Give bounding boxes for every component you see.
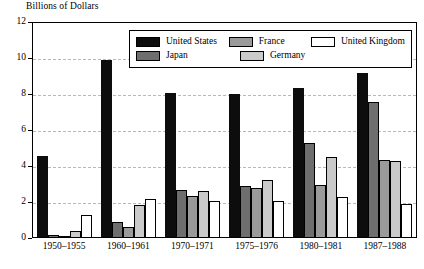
x-axis-tick-label: 1970–1971 <box>160 241 224 259</box>
bar-de[interactable] <box>326 157 337 237</box>
bar-fr[interactable] <box>59 236 70 237</box>
bar-us[interactable] <box>229 94 240 237</box>
y-axis-tick-label: 8 <box>2 89 26 99</box>
x-axis-tick-label: 1987–1988 <box>353 241 417 259</box>
y-axis-tick-label: 12 <box>2 17 26 27</box>
legend-item-japan: Japan <box>136 51 240 61</box>
legend-label: France <box>259 37 285 47</box>
bar-jp[interactable] <box>304 143 315 237</box>
y-axis-tick-label: 10 <box>2 53 26 63</box>
bar-uk[interactable] <box>337 197 348 237</box>
bar-us[interactable] <box>357 73 368 237</box>
bar-uk[interactable] <box>273 201 284 237</box>
x-axis-tick-label: 1960–1961 <box>96 241 160 259</box>
bar-uk[interactable] <box>401 204 412 237</box>
bar-fr[interactable] <box>251 188 262 238</box>
y-axis-tick-label: 6 <box>2 125 26 135</box>
chart-legend: United States France United Kingdom Japa… <box>129 30 412 68</box>
legend-swatch-icon-germany <box>240 51 264 61</box>
legend-label: United Kingdom <box>341 37 405 47</box>
bar-chart: Billions of Dollars 024681012 1950–19551… <box>0 0 424 269</box>
bar-jp[interactable] <box>48 235 59 237</box>
bar-uk[interactable] <box>209 201 220 237</box>
bar-jp[interactable] <box>176 190 187 237</box>
legend-row: Japan Germany <box>136 49 405 63</box>
bar-de[interactable] <box>198 191 209 237</box>
y-axis-tick-label: 0 <box>2 233 26 243</box>
x-axis-tick-label: 1980–1981 <box>289 241 353 259</box>
legend-swatch-icon-united-states <box>136 37 160 47</box>
legend-item-france: France <box>229 37 311 47</box>
legend-label: Japan <box>166 51 188 61</box>
legend-item-united-kingdom: United Kingdom <box>311 37 405 47</box>
bar-fr[interactable] <box>379 160 390 237</box>
y-axis-title: Billions of Dollars <box>26 1 99 11</box>
legend-label: United States <box>166 37 217 47</box>
bar-group <box>33 23 97 237</box>
bar-us[interactable] <box>293 88 304 237</box>
bar-jp[interactable] <box>240 186 251 237</box>
legend-swatch-icon-united-kingdom <box>311 37 335 47</box>
legend-swatch-icon-japan <box>136 51 160 61</box>
x-axis-labels: 1950–19551960–19611970–19711975–19761980… <box>32 241 417 259</box>
bar-de[interactable] <box>134 205 145 237</box>
bar-fr[interactable] <box>123 227 134 237</box>
x-axis-tick-label: 1950–1955 <box>32 241 96 259</box>
legend-row: United States France United Kingdom <box>136 35 405 49</box>
bar-de[interactable] <box>390 161 401 238</box>
y-axis-tick-mark <box>28 238 32 239</box>
legend-item-germany: Germany <box>240 51 332 61</box>
legend-label: Germany <box>270 51 305 61</box>
y-axis-tick-label: 2 <box>2 197 26 207</box>
bar-uk[interactable] <box>81 215 92 237</box>
y-axis-tick-label: 4 <box>2 161 26 171</box>
x-axis-tick-label: 1975–1976 <box>225 241 289 259</box>
bar-de[interactable] <box>262 180 273 237</box>
bar-fr[interactable] <box>315 185 326 237</box>
bar-us[interactable] <box>37 156 48 237</box>
legend-swatch-icon-france <box>229 37 253 47</box>
bar-jp[interactable] <box>368 102 379 237</box>
bar-fr[interactable] <box>187 196 198 237</box>
bar-jp[interactable] <box>112 222 123 237</box>
bar-uk[interactable] <box>145 199 156 237</box>
bar-us[interactable] <box>101 60 112 237</box>
legend-item-united-states: United States <box>136 37 229 47</box>
bar-us[interactable] <box>165 93 176 237</box>
bar-de[interactable] <box>70 231 81 237</box>
